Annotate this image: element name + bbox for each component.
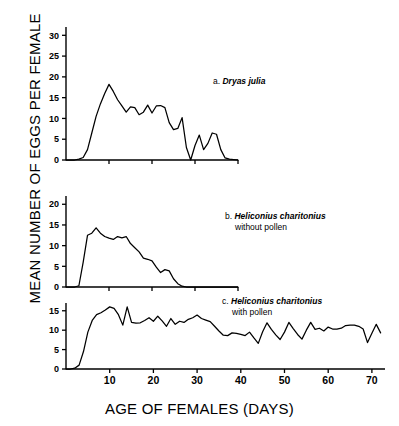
panel-b-species: Heliconius charitonius	[234, 211, 325, 221]
figure-container: MEAN NUMBER OF EGGS PER FEMALE AGE OF FE…	[0, 0, 399, 426]
panel-a: 051015202530	[49, 27, 238, 165]
x-tick-label: 20	[148, 374, 160, 386]
panel-c-note: with pollen	[232, 307, 272, 317]
data-line	[66, 84, 238, 160]
panel-c-letter: c.	[222, 296, 229, 306]
y-tick-label: 0	[54, 282, 59, 292]
x-axis-label: AGE OF FEMALES (DAYS)	[0, 400, 399, 417]
x-tick-label: 10	[104, 374, 116, 386]
x-tick-label: 50	[279, 374, 291, 386]
x-tick-label: 30	[191, 374, 203, 386]
y-tick-label: 20	[49, 199, 59, 209]
panel-a-species: Dryas julia	[222, 76, 265, 86]
y-tick-label: 10	[49, 325, 59, 335]
plot-svg: 051015202530 05101520 051015102030405060…	[0, 0, 399, 426]
y-tick-label: 5	[54, 134, 59, 144]
y-tick-label: 0	[54, 364, 59, 374]
panel-b-annotation: b. Heliconius charitonius without pollen	[225, 211, 326, 232]
y-tick-label: 0	[54, 155, 59, 165]
panel-c-annotation: c. Heliconius charitonius with pollen	[222, 296, 322, 317]
y-tick-label: 10	[49, 114, 59, 124]
panel-b-note: without pollen	[235, 222, 287, 232]
x-tick-label: 70	[366, 374, 378, 386]
panel-b-letter: b.	[225, 211, 232, 221]
y-axis-label: MEAN NUMBER OF EGGS PER FEMALE	[26, 44, 43, 304]
x-tick-label: 40	[235, 374, 247, 386]
y-tick-label: 30	[49, 31, 59, 41]
y-tick-label: 5	[54, 345, 59, 355]
y-tick-label: 5	[54, 262, 59, 272]
y-tick-label: 10	[49, 241, 59, 251]
y-tick-label: 15	[49, 306, 59, 316]
y-tick-label: 15	[49, 93, 59, 103]
panel-a-annotation: a. Dryas julia	[213, 76, 265, 87]
panel-b: 05101520	[49, 196, 238, 292]
data-line	[66, 228, 238, 287]
x-tick-label: 60	[322, 374, 334, 386]
y-tick-label: 25	[49, 51, 59, 61]
y-tick-label: 20	[49, 72, 59, 82]
panel-c: 05101510203040506070	[49, 303, 385, 386]
panel-a-letter: a.	[213, 76, 220, 86]
y-tick-label: 15	[49, 220, 59, 230]
panel-c-species: Heliconius charitonius	[231, 296, 322, 306]
